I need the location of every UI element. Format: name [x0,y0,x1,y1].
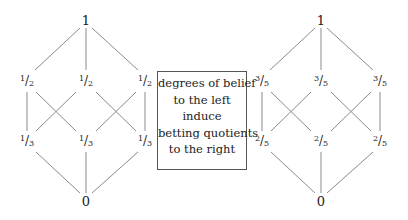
denominator: 5 [323,139,328,148]
numerator: 1 [138,134,143,143]
left-lower-node: 1/3 [79,135,93,148]
numerator: 3 [373,74,378,83]
caption-line: to the left [158,92,246,109]
denominator: 3 [29,139,34,148]
denominator: 5 [382,139,387,148]
denominator: 5 [264,139,269,148]
caption-line: induce [158,108,246,125]
right-bottom-node: 0 [317,195,325,208]
right-top-node: 1 [317,14,325,27]
numerator: 2 [373,134,378,143]
denominator: 3 [88,139,93,148]
caption-box: degrees of belief to the left induce bet… [157,71,247,170]
numerator: 1 [20,74,25,83]
left-top-node: 1 [82,14,90,27]
left-lower-node: 1/3 [138,135,152,148]
numerator: 2 [314,134,319,143]
numerator: 1 [20,134,25,143]
caption-line: degrees of belief [158,75,246,92]
denominator: 5 [264,79,269,88]
denominator: 5 [323,79,328,88]
caption-line: to the right [158,141,246,158]
left-middle-node: 1/2 [79,75,93,88]
denominator: 3 [147,139,152,148]
numerator: 1 [138,74,143,83]
right-middle-node: 3/5 [373,75,387,88]
denominator: 2 [29,79,34,88]
numerator: 3 [255,74,260,83]
left-lower-node: 1/3 [20,135,34,148]
denominator: 5 [382,79,387,88]
denominator: 2 [88,79,93,88]
numerator: 3 [314,74,319,83]
numerator: 2 [255,134,260,143]
right-lower-node: 2/5 [314,135,328,148]
numerator: 1 [79,134,84,143]
right-lower-node: 2/5 [373,135,387,148]
left-middle-node: 1/2 [138,75,152,88]
right-lower-node: 2/5 [255,135,269,148]
right-middle-node: 3/5 [255,75,269,88]
caption-line: betting quotients [158,125,246,142]
right-middle-node: 3/5 [314,75,328,88]
denominator: 2 [147,79,152,88]
left-bottom-node: 0 [82,195,90,208]
left-middle-node: 1/2 [20,75,34,88]
numerator: 1 [79,74,84,83]
